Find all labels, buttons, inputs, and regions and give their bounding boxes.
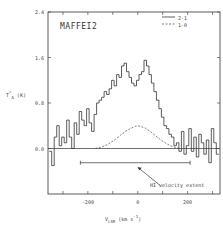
series-2-1-line bbox=[49, 60, 219, 165]
y-axis-label: T*A (K) bbox=[6, 90, 26, 100]
spectrum-chart: -20002002.41.60.80.0 MAFFEI2 2-1 1-0 T*A… bbox=[0, 0, 223, 229]
plot-frame bbox=[48, 12, 220, 194]
y-tick-label: 0.8 bbox=[35, 100, 44, 106]
x-tick-label: -200 bbox=[82, 199, 94, 205]
y-tick-label: 2.4 bbox=[35, 9, 44, 15]
legend-label-1-0: 1-0 bbox=[178, 22, 187, 28]
spectrum-plot: -20002002.41.60.80.0 bbox=[0, 0, 223, 229]
chart-title: MAFFEI2 bbox=[60, 22, 97, 31]
x-axis-label: VLSR (km s-1) bbox=[105, 214, 141, 224]
y-tick-label: 0.0 bbox=[35, 146, 44, 152]
series-1-0-line bbox=[95, 126, 180, 149]
y-tick-label: 1.6 bbox=[35, 55, 44, 61]
legend-label-2-1: 2-1 bbox=[178, 15, 187, 21]
hi-velocity-annotation: HI velocity extent bbox=[150, 182, 204, 188]
x-tick-label: 0 bbox=[136, 199, 139, 205]
x-tick-label: 200 bbox=[183, 199, 192, 205]
